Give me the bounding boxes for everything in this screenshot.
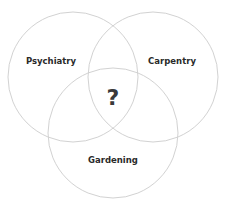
- circle-carpentry: [88, 12, 218, 142]
- venn-diagram: Psychiatry Carpentry Gardening ?: [0, 0, 226, 206]
- label-gardening: Gardening: [88, 155, 138, 165]
- label-psychiatry: Psychiatry: [26, 56, 77, 66]
- label-carpentry: Carpentry: [148, 56, 196, 66]
- circle-psychiatry: [8, 12, 138, 142]
- intersection-question-mark: ?: [107, 85, 120, 110]
